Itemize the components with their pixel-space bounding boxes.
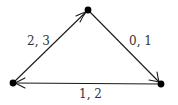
node-bottom-right xyxy=(158,81,165,88)
edge-label-left: 2, 3 xyxy=(27,35,50,47)
edge-label-bottom: 1, 2 xyxy=(79,88,102,100)
node-bottom-left xyxy=(10,80,17,87)
edge-label-right: 0, 1 xyxy=(129,35,152,47)
edge-bottom-left-to-top xyxy=(13,10,88,83)
node-top xyxy=(85,7,92,14)
